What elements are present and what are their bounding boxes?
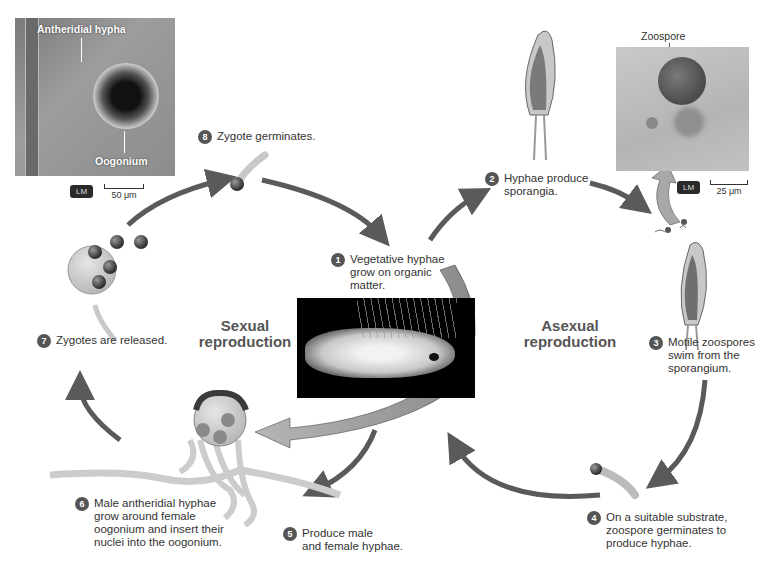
step-line: grow around female [94, 510, 224, 523]
arrow-1-to-2 [430, 195, 478, 240]
scale-bar-right: 25 μm [710, 180, 748, 196]
step-line: and female hyphae. [302, 540, 403, 553]
step-badge: 1 [331, 253, 345, 267]
arrow-1-to-5 [316, 430, 375, 490]
step-text: On a suitable substrate, zoospore germin… [606, 511, 727, 550]
zoospore-shadow [674, 107, 704, 137]
oogonium-cell [93, 63, 159, 129]
step-badge: 5 [283, 527, 297, 541]
step-text: Hyphae produce sporangia. [504, 172, 588, 198]
oogonium-releasing-zygotes [68, 235, 148, 340]
step-4: 4 On a suitable substrate, zoospore germ… [587, 511, 727, 550]
lm-badge-right: LM [677, 181, 700, 194]
scale-bar-value: 50 μm [111, 190, 136, 200]
step-line: oogonium and insert their [94, 523, 224, 536]
step-text: Zygote germinates. [217, 130, 315, 143]
step-badge: 6 [75, 497, 89, 511]
step-line: grow on organic [350, 266, 445, 279]
step-badge: 8 [198, 130, 212, 144]
step-6: 6 Male antheridial hyphae grow around fe… [75, 497, 224, 549]
germinating-zygote [230, 155, 265, 191]
step-text: Motile zoospores swim from the sporangiu… [668, 336, 755, 375]
label-oogonium: Oogonium [95, 155, 148, 167]
title-line-2: reproduction [515, 334, 625, 350]
sporangium-zoospores-illustration [655, 219, 707, 350]
arrow-3-to-4 [658, 380, 705, 480]
pointer-line [124, 131, 125, 153]
scale-bar-left: 50 μm [104, 184, 144, 200]
step-line: swim from the [668, 349, 755, 362]
step-line: Hyphae produce [504, 172, 588, 185]
micrograph-oogonium: Antheridial hypha Oogonium [15, 18, 175, 176]
step-line: sporangia. [504, 185, 588, 198]
arrow-2-to-3 [590, 183, 640, 205]
germinating-zoospore [590, 463, 635, 495]
small-cell [646, 117, 658, 129]
title-sexual-reproduction: Sexual reproduction [190, 318, 300, 350]
scale-bar-line [710, 180, 748, 185]
lm-badge-left: LM [70, 185, 93, 198]
mold-filaments [357, 298, 457, 338]
step-badge: 7 [37, 334, 51, 348]
step-line: zoospore germinates to [606, 524, 727, 537]
step-line: Zygote germinates. [217, 130, 315, 143]
micrograph-zoospore [616, 47, 749, 171]
step-line: sporangium. [668, 362, 755, 375]
pointer-line [81, 38, 82, 62]
step-text: Zygotes are released. [56, 334, 167, 347]
photo-water-mold-on-insect [297, 298, 475, 398]
step-line: On a suitable substrate, [606, 511, 727, 524]
step-line: Vegetative hyphae [350, 253, 445, 266]
step-badge: 3 [649, 336, 663, 350]
label-antheridial-hypha: Antheridial hypha [37, 23, 126, 35]
step-text: Male antheridial hyphae grow around fema… [94, 497, 224, 549]
step-5: 5 Produce male and female hyphae. [283, 527, 403, 553]
wide-arrow-to-micrograph [652, 165, 680, 225]
step-8: 8 Zygote germinates. [198, 130, 315, 144]
sporangium-illustration [526, 31, 556, 160]
step-line: produce hyphae. [606, 537, 727, 550]
step-badge: 2 [485, 172, 499, 186]
step-3: 3 Motile zoospores swim from the sporang… [649, 336, 755, 375]
arrow-8-to-1 [262, 180, 380, 235]
step-line: Zygotes are released. [56, 334, 167, 347]
insect-eye [429, 353, 439, 361]
title-line-2: reproduction [190, 334, 300, 350]
hypha-strand [25, 18, 39, 176]
arrow-6-to-7 [80, 385, 120, 440]
step-2: 2 Hyphae produce sporangia. [485, 172, 588, 198]
arrow-4-to-1 [455, 445, 600, 496]
step-1: 1 Vegetative hyphae grow on organic matt… [331, 253, 445, 292]
step-line: Motile zoospores [668, 336, 755, 349]
step-line: Male antheridial hyphae [94, 497, 224, 510]
title-line-1: Asexual [515, 318, 625, 334]
scale-bar-line [104, 184, 144, 189]
step-text: Vegetative hyphae grow on organic matter… [350, 253, 445, 292]
title-line-1: Sexual [190, 318, 300, 334]
zoospore-cluster [658, 57, 706, 105]
scale-bar-value: 25 μm [716, 186, 741, 196]
step-line: nuclei into the oogonium. [94, 536, 224, 549]
step-badge: 4 [587, 511, 601, 525]
step-line: Produce male [302, 527, 403, 540]
title-asexual-reproduction: Asexual reproduction [515, 318, 625, 350]
step-line: matter. [350, 279, 445, 292]
label-zoospore: Zoospore [641, 30, 685, 42]
step-7: 7 Zygotes are released. [37, 334, 167, 348]
step-text: Produce male and female hyphae. [302, 527, 403, 553]
